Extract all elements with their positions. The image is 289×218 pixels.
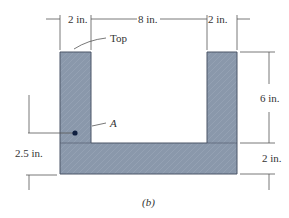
- point-height-label: 2.5 in.: [15, 147, 43, 159]
- right-dimension-lines: [240, 52, 275, 190]
- figure-caption: (b): [142, 196, 155, 209]
- top-label: Top: [110, 32, 127, 44]
- web-height-label: 2 in.: [262, 152, 282, 164]
- left-flange-width-label: 2 in.: [68, 13, 88, 25]
- cross-section: [60, 52, 237, 174]
- channel-section-diagram: 2 in. 8 in. 2 in. Top A 6 in. 2 in. 2.5 …: [0, 0, 289, 218]
- point-a-leader-line: [92, 123, 106, 126]
- point-a-marker: [72, 130, 77, 135]
- flange-height-label: 6 in.: [260, 92, 280, 104]
- gap-width-label: 8 in.: [138, 13, 158, 25]
- top-leader-line: [74, 38, 106, 49]
- point-a-label: A: [109, 117, 117, 129]
- right-flange-width-label: 2 in.: [208, 13, 228, 25]
